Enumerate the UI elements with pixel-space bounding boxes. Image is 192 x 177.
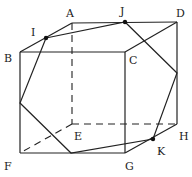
label-I: I xyxy=(31,26,35,39)
labels: A B C D E F G H I J K xyxy=(4,5,189,173)
label-C: C xyxy=(129,54,137,67)
point-J-dot xyxy=(123,20,127,24)
label-H: H xyxy=(179,130,189,143)
section-hexagon xyxy=(20,22,177,153)
label-G: G xyxy=(125,160,134,173)
point-K-dot xyxy=(151,137,155,141)
label-J: J xyxy=(119,5,124,18)
visible-edges xyxy=(20,22,177,153)
cross-section-polygon xyxy=(20,22,177,153)
label-K: K xyxy=(157,145,166,158)
hidden-edges xyxy=(20,23,177,153)
label-F: F xyxy=(4,160,12,173)
label-D: D xyxy=(176,7,185,20)
point-I-dot xyxy=(44,36,48,40)
cube-cross-section-diagram: A B C D E F G H I J K xyxy=(0,0,192,177)
label-E: E xyxy=(74,130,82,143)
label-B: B xyxy=(4,52,12,65)
marked-points xyxy=(44,20,155,141)
label-A: A xyxy=(65,7,75,20)
